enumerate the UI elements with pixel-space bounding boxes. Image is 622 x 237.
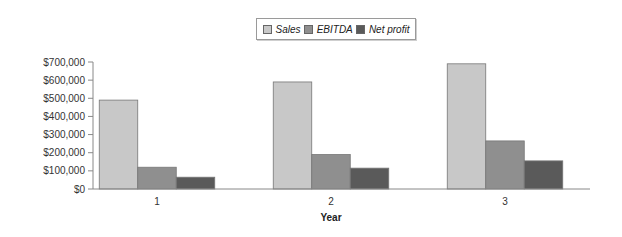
bar-net-profit — [524, 161, 563, 189]
y-tick-label: $400,000 — [43, 111, 85, 122]
x-tick-label: 1 — [154, 196, 160, 207]
bar-net-profit — [176, 177, 215, 189]
bar-ebitda — [486, 141, 525, 189]
y-tick-label: $100,000 — [43, 165, 85, 176]
y-axis: $0$100,000$200,000$300,000$400,000$500,0… — [43, 57, 93, 195]
bar-sales — [99, 100, 138, 189]
y-tick-label: $600,000 — [43, 75, 85, 86]
bars — [99, 64, 563, 189]
x-axis-title: Year — [320, 212, 341, 223]
bar-ebitda — [138, 167, 177, 189]
x-tick-label: 3 — [502, 196, 508, 207]
x-axis: 123Year — [93, 189, 590, 223]
x-tick-label: 2 — [328, 196, 334, 207]
bar-chart: $0$100,000$200,000$300,000$400,000$500,0… — [0, 0, 622, 237]
bar-sales — [273, 82, 312, 189]
y-tick-label: $300,000 — [43, 129, 85, 140]
y-tick-label: $700,000 — [43, 57, 85, 68]
y-tick-label: $0 — [74, 184, 86, 195]
bar-sales — [447, 64, 486, 189]
bar-ebitda — [312, 155, 351, 189]
bar-net-profit — [350, 168, 389, 189]
y-tick-label: $500,000 — [43, 93, 85, 104]
y-tick-label: $200,000 — [43, 147, 85, 158]
